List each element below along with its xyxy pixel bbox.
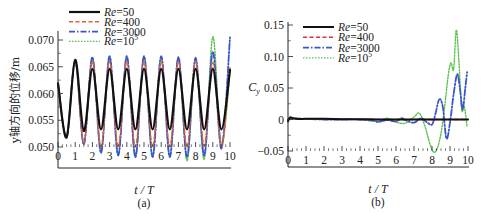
y-tick-label: 0.070	[28, 34, 54, 46]
x-tick-label: 8	[193, 150, 199, 162]
x-tick-label: 6	[158, 150, 164, 162]
chart-a-panel-label: (a)	[138, 197, 151, 210]
x-tick-label: 10	[224, 150, 236, 162]
chart-b-legend: Re=50Re=400Re=3000Re=105	[303, 21, 380, 64]
y-tick-label: −0.05	[257, 145, 284, 157]
x-tick-label: 0	[55, 150, 61, 162]
chart-b-x-label: t / T	[368, 182, 389, 196]
chart-a: 0123456789100.0500.0550.0600.0650.070 t …	[8, 6, 236, 210]
series-line-400	[58, 60, 230, 147]
y-tick-label: 0	[278, 114, 284, 126]
figure: 0123456789100.0500.0550.0600.0650.070 t …	[0, 0, 485, 221]
x-tick-label: 5	[375, 154, 381, 166]
legend-label: Re=105	[103, 33, 138, 47]
series-line-3000	[288, 72, 467, 139]
y-tick-label: 0.065	[28, 61, 54, 73]
x-tick-label: 1	[72, 150, 78, 162]
legend-label: Re=105	[337, 50, 372, 64]
chart-a-x-label: t / T	[134, 183, 155, 197]
x-tick-label: 2	[321, 154, 327, 166]
y-tick-label: 0.10	[264, 51, 284, 63]
chart-a-legend: Re=50Re=400Re=3000Re=105	[69, 6, 146, 47]
x-tick-label: 4	[124, 150, 130, 162]
y-tick-label: 0.055	[28, 114, 54, 126]
x-tick-label: 4	[357, 154, 363, 166]
x-tick-label: 9	[210, 150, 216, 162]
series-line-3000	[58, 37, 230, 157]
x-tick-label: 9	[447, 154, 453, 166]
x-tick-label: 0	[285, 154, 291, 166]
y-tick-label: 0.050	[28, 141, 54, 153]
y-tick-label: 0.060	[28, 88, 54, 100]
chart-b-panel-label: (b)	[371, 196, 385, 209]
y-tick-label: 0.15	[264, 19, 284, 31]
x-tick-label: 6	[393, 154, 399, 166]
chart-a-y-label: y轴方向的位移/m	[8, 56, 22, 144]
chart-b: 012345678910−0.0500.050.100.15 t / T Cy …	[248, 19, 474, 209]
x-tick-label: 1	[303, 154, 309, 166]
x-tick-label: 7	[176, 150, 182, 162]
chart-b-y-label: Cy	[248, 80, 260, 96]
x-tick-label: 8	[429, 154, 435, 166]
x-tick-label: 3	[339, 154, 345, 166]
x-tick-label: 2	[90, 150, 96, 162]
x-tick-label: 3	[107, 150, 113, 162]
y-tick-label: 0.05	[264, 82, 284, 94]
x-tick-label: 5	[141, 150, 147, 162]
x-tick-label: 10	[462, 154, 474, 166]
series-line-50	[58, 60, 230, 138]
x-tick-label: 7	[411, 154, 417, 166]
